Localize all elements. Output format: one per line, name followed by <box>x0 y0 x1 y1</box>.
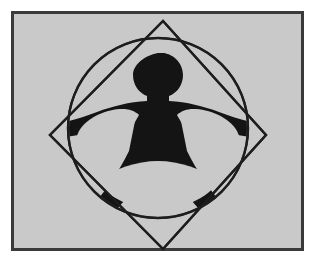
image-caption: Black human silhouette with arms outstre… <box>0 16 1 17</box>
page-title: Vitruvian figure inscribed in circle and… <box>0 21 1 22</box>
page-root: Vitruvian figure inscribed in circle and… <box>0 0 322 270</box>
figure-panel <box>11 11 304 251</box>
head-shape <box>140 53 182 97</box>
figure-illustration <box>11 11 304 251</box>
